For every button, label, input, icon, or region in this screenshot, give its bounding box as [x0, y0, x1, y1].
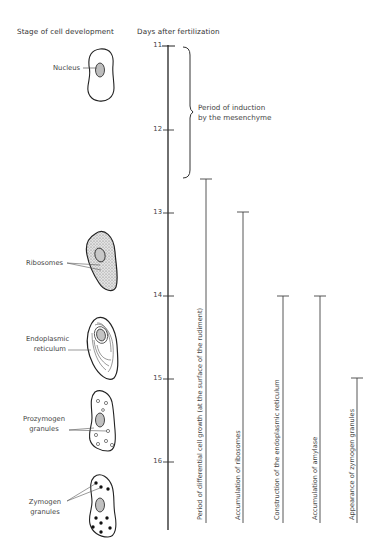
prozymogen-label: Prozymogen granules: [23, 414, 65, 434]
zymogen-label: Zymogen granules: [25, 497, 65, 517]
zymogen-label-line2: granules: [25, 507, 65, 517]
prozymogen-label-line1: Prozymogen: [23, 414, 65, 424]
induction-label-line1: Period of induction: [198, 103, 272, 113]
induction-bracket: [183, 47, 193, 178]
bar-label-differential-growth: Period of differential cell growth (at t…: [196, 308, 204, 520]
diagram-canvas: [0, 0, 386, 557]
time-axis: [162, 45, 175, 530]
bar-label-ribosomes: Accumulation of ribosomes: [234, 430, 242, 520]
cell-er-illustration: [68, 317, 118, 379]
nucleus-label: Nucleus: [53, 64, 80, 72]
induction-label: Period of induction by the mesenchyme: [198, 103, 272, 123]
cell-zymogen-illustration: [67, 475, 116, 537]
cell-nucleus-illustration: [83, 49, 114, 101]
bar-label-endoplasmic-reticulum: Construction of the endoplasmic reticulu…: [273, 379, 281, 520]
er-label-line2: reticulum: [26, 344, 66, 354]
bar-label-amylase: Accumulation of amylase: [311, 437, 319, 520]
ribosomes-label: Ribosomes: [26, 259, 63, 267]
cell-ribosomes-illustration: [67, 232, 117, 291]
cell-prozymogen-illustration: [69, 391, 115, 451]
er-label: Endoplasmic reticulum: [26, 334, 66, 354]
bar-label-zymogen: Appearance of zymogen granules: [348, 409, 356, 520]
zymogen-label-line1: Zymogen: [25, 497, 65, 507]
induction-label-line2: by the mesenchyme: [198, 113, 272, 123]
prozymogen-label-line2: granules: [23, 424, 65, 434]
er-label-line1: Endoplasmic: [26, 334, 66, 344]
